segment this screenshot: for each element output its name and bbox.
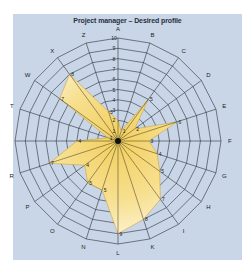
- ring-tick: 5: [113, 87, 116, 93]
- axis-label-e: E: [222, 103, 226, 109]
- axis-label-k: K: [151, 244, 155, 250]
- value-label: 4: [159, 151, 162, 157]
- axis-label-b: B: [151, 32, 155, 38]
- value-label: 1: [110, 135, 113, 141]
- value-label: 5: [161, 168, 164, 174]
- axis-label-o: O: [50, 228, 55, 234]
- value-label: 5: [104, 187, 107, 193]
- ring-tick: 4: [113, 97, 116, 103]
- value-label: 2: [136, 126, 139, 132]
- value-label: 5: [150, 96, 153, 102]
- axis-label-n: N: [81, 244, 85, 250]
- axis-label-g: G: [222, 173, 227, 179]
- axis-label-c: C: [182, 48, 187, 54]
- axis-label-p: P: [26, 204, 30, 210]
- ring-tick: 6: [113, 76, 116, 82]
- value-label: 4: [78, 138, 81, 144]
- ring-tick: 1: [113, 128, 116, 134]
- axis-label-i: I: [183, 228, 185, 234]
- axis-label-f: F: [228, 138, 232, 144]
- value-label: 9: [120, 231, 123, 237]
- value-label: 8: [71, 71, 74, 77]
- value-label: 3: [110, 109, 113, 115]
- ring-tick: 7: [113, 66, 116, 72]
- radar-chart: ABCDEFGHIKLNOPRTWXZ 12345678910152634578…: [0, 0, 251, 268]
- axis-label-h: H: [206, 204, 210, 210]
- value-label: 8: [145, 216, 148, 222]
- axis-label-d: D: [206, 72, 211, 78]
- ring-tick: 3: [113, 107, 116, 113]
- axis-label-w: W: [25, 72, 31, 78]
- value-label: 5: [89, 180, 92, 186]
- value-label: 7: [162, 196, 165, 202]
- axis-label-l: L: [116, 250, 120, 256]
- value-label: 7: [51, 160, 54, 166]
- center-dot: [115, 138, 121, 144]
- value-label: 7: [61, 96, 64, 102]
- axis-label-t: T: [10, 103, 14, 109]
- ring-tick: 10: [111, 35, 117, 41]
- axis-label-a: A: [116, 26, 120, 32]
- value-label: 1: [123, 128, 126, 134]
- value-label: 6: [178, 119, 181, 125]
- ring-tick: 9: [113, 45, 116, 51]
- ring-tick: 2: [113, 117, 116, 123]
- axis-label-x: X: [50, 48, 54, 54]
- value-label: 4: [86, 162, 89, 168]
- axis-label-r: R: [10, 173, 15, 179]
- value-label: 3: [151, 138, 154, 144]
- axis-label-z: Z: [82, 32, 86, 38]
- ring-tick: 8: [113, 56, 116, 62]
